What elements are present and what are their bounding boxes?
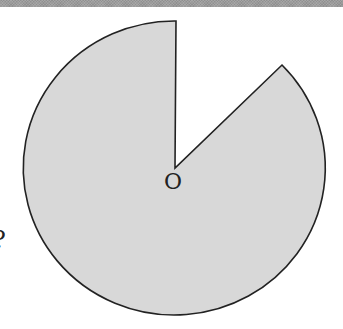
diagram-canvas: O ? — [0, 0, 343, 329]
center-point-label: O — [164, 171, 182, 193]
major-sector-shape — [23, 21, 325, 315]
circle-with-missing-sector — [0, 0, 343, 329]
question-mark-marker: ? — [0, 228, 6, 252]
